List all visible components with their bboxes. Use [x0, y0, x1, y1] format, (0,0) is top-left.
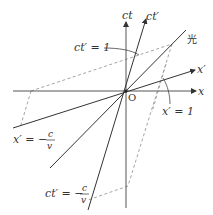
ct-prime-eq-1-label: ct′ = 1	[74, 41, 110, 54]
svg-text:x′ = −: x′ = −	[13, 133, 47, 146]
svg-text:ct′ = −: ct′ = −	[45, 187, 84, 200]
light-label: 光	[187, 33, 197, 45]
svg-text:c: c	[48, 129, 53, 139]
svg-text:v: v	[81, 195, 86, 205]
x-prime-axis	[13, 70, 195, 128]
svg-text:v: v	[47, 141, 52, 151]
ct-axis-label: ct	[122, 9, 133, 22]
x-prime-eq-1-label: x′ = 1	[162, 105, 194, 118]
ct-prime-axis-label: ct′	[146, 10, 160, 23]
x-prime-axis-label: x′	[197, 63, 206, 76]
x-prime-eq-neg-c-over-v: x′ = − c v	[13, 129, 55, 151]
origin-label: O	[128, 92, 136, 103]
x-axis-label: x	[198, 85, 205, 98]
svg-text:c: c	[82, 183, 87, 193]
light-line	[50, 30, 186, 168]
spacetime-diagram: ct ct′ 光 x′ x O ct′ = 1 x′ = 1 x′ = − c …	[0, 0, 213, 215]
ct-prime-eq-neg-c-over-v: ct′ = − c v	[45, 183, 89, 205]
